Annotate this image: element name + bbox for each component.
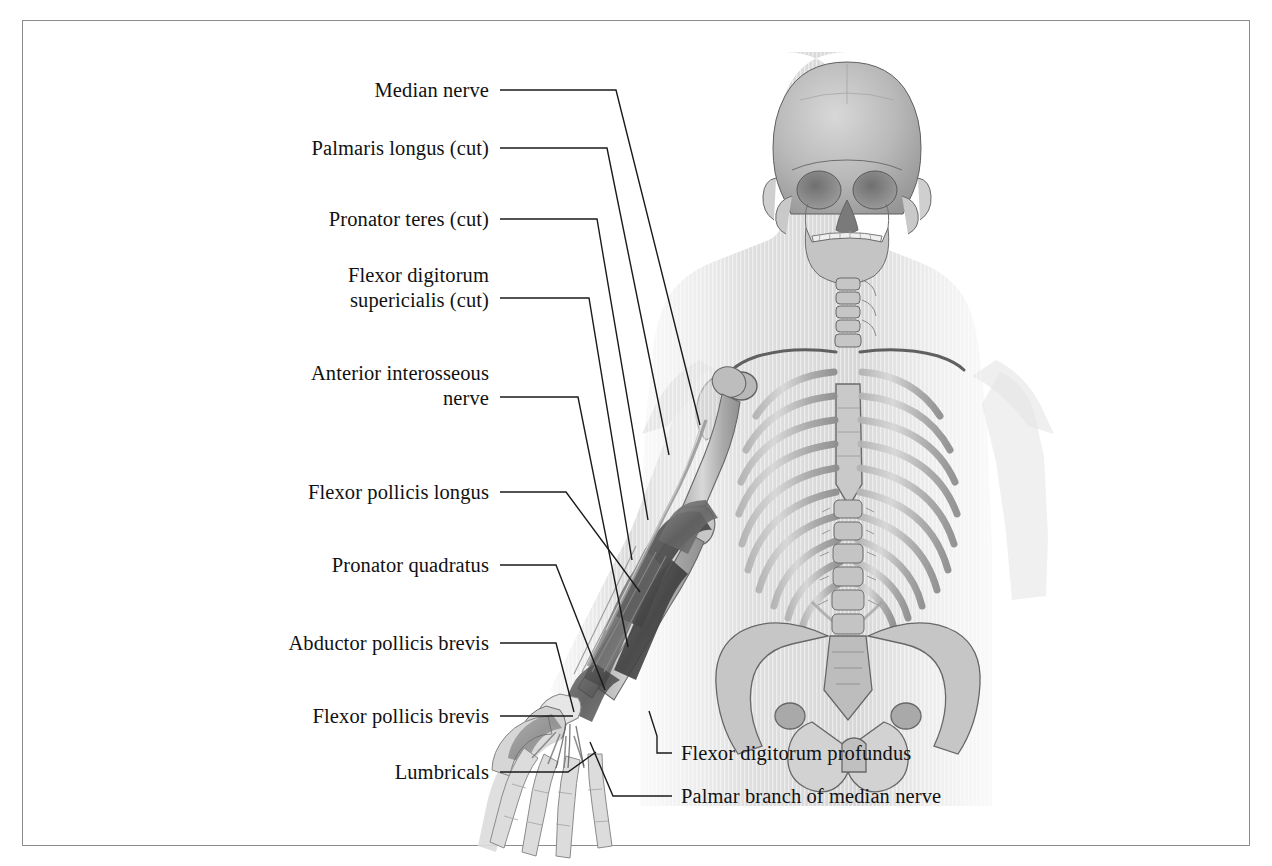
label-anterior-interosseous-nerve: Anterior interosseous nerve <box>189 361 489 411</box>
label-median-nerve: Median nerve <box>189 78 489 103</box>
label-pronator-teres: Pronator teres (cut) <box>189 207 489 232</box>
label-abductor-pollicis-brevis: Abductor pollicis brevis <box>179 631 489 656</box>
label-lumbricals: Lumbricals <box>189 760 489 785</box>
label-flexor-pollicis-brevis: Flexor pollicis brevis <box>189 704 489 729</box>
label-flexor-digitorum-profundus: Flexor digitorum profundus <box>681 741 1101 766</box>
label-palmaris-longus: Palmaris longus (cut) <box>189 136 489 161</box>
label-flexor-pollicis-longus: Flexor pollicis longus <box>189 480 489 505</box>
anatomy-figure: Median nerve Palmaris longus (cut) Prona… <box>0 0 1272 866</box>
anatomy-artwork <box>0 0 1272 866</box>
label-pronator-quadratus: Pronator quadratus <box>189 553 489 578</box>
label-flexor-digitorum-superficialis: Flexor digitorum supericialis (cut) <box>189 263 489 313</box>
label-palmar-branch-median-nerve: Palmar branch of median nerve <box>681 784 1101 809</box>
